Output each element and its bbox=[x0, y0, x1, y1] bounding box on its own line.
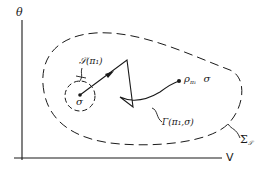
neighborhood-label: 𝒮(π₁) bbox=[79, 57, 103, 66]
v-axis-label: V bbox=[226, 152, 234, 163]
path-leader bbox=[152, 108, 162, 122]
region-sigma-boundary bbox=[43, 33, 242, 145]
endpoint-rho-subscript: π₁ bbox=[190, 78, 196, 85]
path-label: Γ(π₁,σ) bbox=[162, 118, 194, 127]
endpoint-label: ρπ₁ σ bbox=[184, 74, 210, 85]
region-sigma-label: Σ𝒮 bbox=[240, 134, 253, 146]
trajectory-arrow-icon bbox=[105, 71, 114, 78]
region-sigma-subscript: 𝒮 bbox=[248, 139, 253, 146]
theta-axis-label: θ bbox=[16, 7, 23, 18]
initial-point-label: σ bbox=[76, 97, 83, 107]
neighborhood-leader bbox=[79, 68, 82, 82]
region-leader bbox=[228, 124, 240, 138]
region-sigma: Σ bbox=[240, 133, 248, 146]
endpoint-sigma: σ bbox=[203, 73, 210, 84]
endpoint bbox=[177, 79, 181, 83]
phase-diagram bbox=[0, 0, 268, 171]
